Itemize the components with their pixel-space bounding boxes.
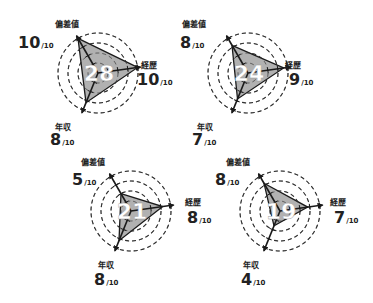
score-nenshu: 4/10 — [241, 272, 265, 288]
score-hensachi: 8/10 — [215, 172, 239, 188]
axis-label-hensachi: 偏差値 — [226, 156, 249, 167]
axis-label-nenshu: 年収 — [243, 259, 259, 270]
radar-chart-4: 19 — [0, 0, 373, 303]
score-denominator: /10 — [253, 279, 265, 287]
score-value: 4 — [241, 270, 252, 289]
score-denominator: /10 — [346, 217, 358, 225]
total-score: 19 — [266, 199, 297, 224]
axis-label-keireki: 経歴 — [330, 196, 346, 207]
score-value: 8 — [215, 170, 226, 189]
score-denominator: /10 — [227, 179, 239, 187]
score-keireki: 7/10 — [334, 210, 358, 226]
score-value: 7 — [334, 208, 345, 227]
radar-chart-grid: 28 偏差値 10/10 経歴 10/10 年収 8/10 24 偏差値 8/1… — [0, 0, 373, 303]
